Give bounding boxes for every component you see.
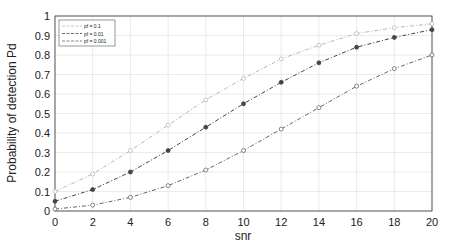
data-point	[166, 149, 170, 153]
y-tick-label: 0.2	[35, 166, 50, 178]
data-point	[242, 149, 246, 153]
data-point	[430, 53, 434, 57]
data-point	[242, 102, 246, 106]
x-axis-ticks: 02468101214161820	[52, 216, 438, 228]
data-point	[166, 184, 170, 188]
data-point	[317, 43, 321, 47]
data-point	[430, 22, 434, 26]
x-tick-label: 20	[426, 216, 438, 228]
data-point	[166, 123, 170, 127]
y-tick-label: 0.8	[35, 49, 50, 61]
x-tick-label: 16	[350, 216, 362, 228]
data-point	[392, 26, 396, 30]
data-point	[204, 98, 208, 102]
data-point	[242, 76, 246, 80]
data-point	[279, 80, 283, 84]
data-point	[317, 61, 321, 65]
data-point	[91, 188, 95, 192]
legend-entry: pf = 0.001	[84, 38, 107, 44]
y-axis-ticks: 00.10.20.30.40.50.60.70.80.91	[35, 10, 50, 217]
data-point	[53, 199, 57, 203]
data-point	[53, 190, 57, 194]
x-tick-label: 8	[203, 216, 209, 228]
data-point	[355, 32, 359, 36]
data-point	[128, 170, 132, 174]
data-point	[53, 207, 57, 211]
x-tick-label: 6	[165, 216, 171, 228]
y-tick-label: 0.3	[35, 147, 50, 159]
y-tick-label: 0.9	[35, 30, 50, 42]
data-point	[392, 35, 396, 39]
data-point	[91, 203, 95, 207]
x-tick-label: 2	[90, 216, 96, 228]
data-point	[355, 84, 359, 88]
legend-entry: pf = 0.01	[84, 31, 104, 37]
data-point	[279, 127, 283, 131]
x-tick-label: 18	[388, 216, 400, 228]
data-point	[91, 172, 95, 176]
data-point	[392, 67, 396, 71]
data-point	[128, 149, 132, 153]
data-point	[355, 45, 359, 49]
x-tick-label: 10	[237, 216, 249, 228]
data-point	[204, 125, 208, 129]
x-tick-label: 14	[313, 216, 325, 228]
y-tick-label: 0.7	[35, 69, 50, 81]
y-tick-label: 1	[44, 10, 50, 22]
y-tick-label: 0.1	[35, 186, 50, 198]
detection-probability-chart: 02468101214161820 00.10.20.30.40.50.60.7…	[0, 0, 454, 250]
y-axis-label: Probability of detection Pd	[5, 43, 19, 182]
data-point	[204, 168, 208, 172]
data-point	[128, 195, 132, 199]
y-tick-label: 0.4	[35, 127, 50, 139]
data-point	[430, 28, 434, 32]
legend: pf = 0.1pf = 0.01pf = 0.001	[59, 20, 115, 46]
legend-entry: pf = 0.1	[84, 23, 101, 29]
y-tick-label: 0	[44, 205, 50, 217]
x-axis-label: snr	[235, 229, 252, 243]
y-tick-label: 0.5	[35, 108, 50, 120]
data-point	[317, 106, 321, 110]
data-point	[279, 57, 283, 61]
x-tick-label: 0	[52, 216, 58, 228]
y-tick-label: 0.6	[35, 88, 50, 100]
x-tick-label: 12	[275, 216, 287, 228]
x-tick-label: 4	[127, 216, 133, 228]
